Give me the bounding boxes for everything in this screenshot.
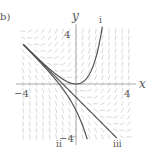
y-tick-4: 4 <box>64 30 70 40</box>
y-axis-label: y <box>72 10 79 22</box>
curve-iii <box>23 44 117 138</box>
x-axis-label: x <box>139 78 146 90</box>
curve-label-i: i <box>99 16 102 25</box>
curve-ii <box>23 45 87 140</box>
slope-field-plot <box>0 0 159 167</box>
panel-label: b) <box>0 12 10 22</box>
curve-label-iii: iii <box>113 140 122 149</box>
x-tick-4: 4 <box>124 89 130 99</box>
x-tick-neg4: −4 <box>14 89 29 99</box>
curve-label-ii: ii <box>56 140 62 149</box>
